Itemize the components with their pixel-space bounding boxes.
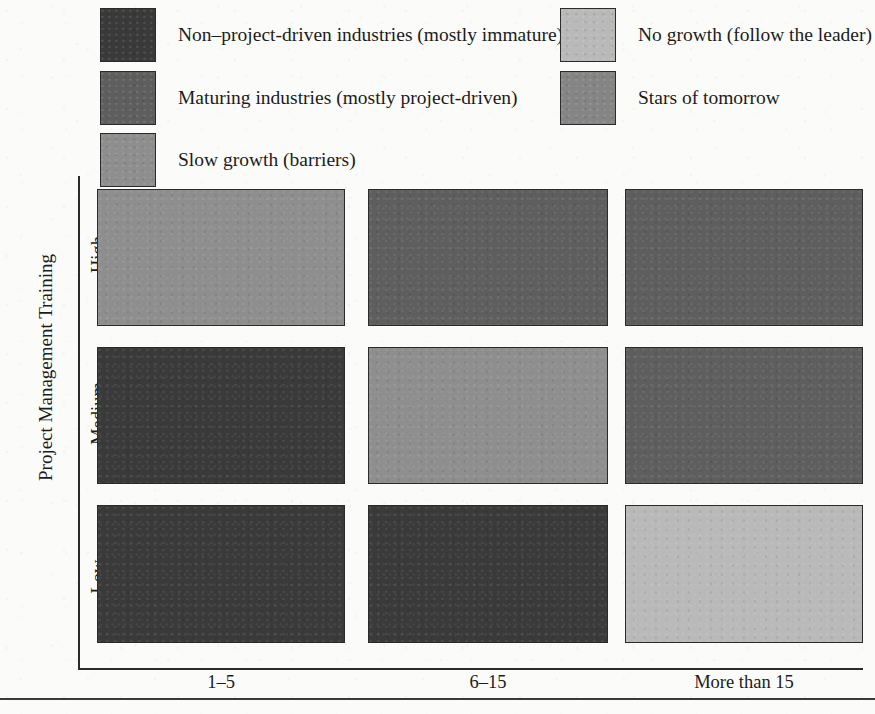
x-tick-label-1: 6–15: [368, 672, 608, 693]
legend-swatch-2: [100, 133, 156, 187]
matrix-cell-high-1-5: [97, 189, 345, 326]
y-axis-title: Project Management Training: [35, 261, 57, 481]
legend-item-4: Stars of tomorrow: [560, 71, 780, 125]
legend-item-1: Maturing industries (mostly project-driv…: [100, 71, 518, 125]
x-tick-label-2: More than 15: [625, 672, 863, 693]
legend-label-1: Maturing industries (mostly project-driv…: [178, 87, 518, 108]
legend-label-3: No growth (follow the leader): [638, 24, 872, 45]
matrix-cell-low-more-than-15: [625, 505, 863, 643]
matrix-cell-medium-1-5: [97, 347, 345, 484]
legend-item-0: Non–project-driven industries (mostly im…: [100, 8, 563, 62]
legend-swatch-3: [560, 8, 616, 62]
matrix-cell-low-6-15: [368, 505, 608, 643]
x-tick-label-0: 1–5: [97, 672, 345, 693]
matrix-cell-high-more-than-15: [625, 189, 863, 326]
y-axis-line: [78, 176, 80, 670]
matrix-chart-figure: Non–project-driven industries (mostly im…: [0, 0, 875, 714]
matrix-cell-low-1-5: [97, 505, 345, 643]
legend-swatch-1: [100, 71, 156, 125]
matrix-cell-medium-6-15: [368, 347, 608, 484]
legend-swatch-4: [560, 71, 616, 125]
matrix-cell-high-6-15: [368, 189, 608, 326]
legend-item-3: No growth (follow the leader): [560, 8, 872, 62]
matrix-cell-medium-more-than-15: [625, 347, 863, 484]
x-axis-bottom-rule: [0, 698, 875, 700]
legend-label-2: Slow growth (barriers): [178, 149, 356, 170]
legend-swatch-0: [100, 8, 156, 62]
x-axis-line: [78, 668, 863, 670]
legend-label-4: Stars of tomorrow: [638, 87, 780, 108]
legend-item-2: Slow growth (barriers): [100, 133, 356, 187]
legend-label-0: Non–project-driven industries (mostly im…: [178, 24, 563, 45]
